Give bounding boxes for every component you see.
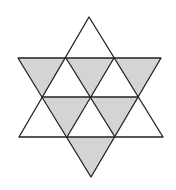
shaded-triangle xyxy=(114,58,161,97)
hexagram-figure xyxy=(0,0,176,190)
shaded-triangle xyxy=(43,97,90,137)
shaded-triangle xyxy=(18,58,66,97)
shaded-triangle xyxy=(66,58,114,97)
shaded-triangle xyxy=(90,97,138,137)
shaded-triangle xyxy=(67,137,115,177)
shaded-triangles xyxy=(18,58,161,177)
